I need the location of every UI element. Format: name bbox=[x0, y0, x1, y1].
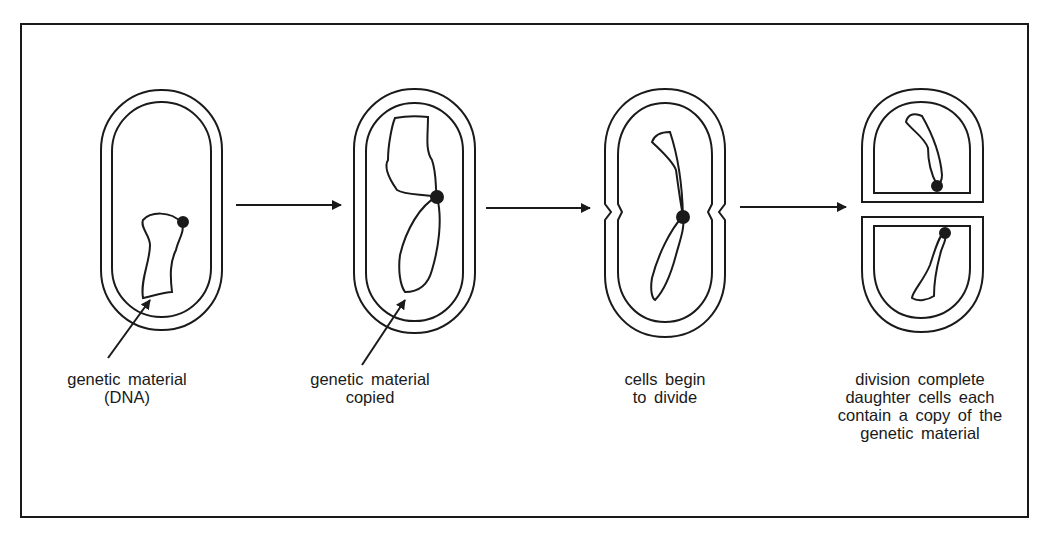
dna-attachment-point bbox=[932, 181, 942, 191]
stage-3-label: cells begin to divide bbox=[565, 370, 765, 406]
stage-4-label: division complete daughter cells each co… bbox=[790, 370, 1050, 442]
label-line: genetic material bbox=[265, 370, 475, 388]
label-line: daughter cells each bbox=[790, 388, 1050, 406]
label-line: (DNA) bbox=[22, 388, 232, 406]
label-line: copied bbox=[265, 388, 475, 406]
dna-attachment-point bbox=[677, 211, 689, 223]
cell-wall-inner bbox=[112, 102, 211, 317]
label-line: contain a copy of the bbox=[790, 406, 1050, 424]
dna-loop-lower bbox=[651, 216, 683, 300]
dna-loop-original bbox=[386, 116, 437, 197]
dna-loop bbox=[142, 214, 182, 298]
dna-loop-upper bbox=[652, 132, 683, 216]
daughter-cell-bottom bbox=[862, 217, 983, 332]
label-line: division complete bbox=[790, 370, 1050, 388]
dna-attachment-point bbox=[940, 228, 950, 238]
label-line: genetic material bbox=[790, 424, 1050, 442]
label-line: genetic material bbox=[22, 370, 232, 388]
cell-wall-outer bbox=[862, 89, 983, 202]
cell-wall-inner bbox=[874, 226, 970, 318]
dna-attachment-point bbox=[178, 217, 188, 227]
label-line: cells begin bbox=[565, 370, 765, 388]
cell-division-diagram bbox=[0, 0, 1052, 533]
cell-stage-1 bbox=[101, 90, 222, 358]
stage-2-label: genetic material copied bbox=[265, 370, 475, 406]
cell-wall-inner bbox=[366, 103, 463, 321]
dna-loop bbox=[912, 232, 945, 300]
cell-stage-2 bbox=[354, 89, 475, 365]
dna-attachment-point bbox=[431, 191, 443, 203]
cell-wall-outer bbox=[862, 217, 983, 332]
cell-wall-outer-pinched bbox=[605, 89, 725, 337]
cell-stage-3 bbox=[605, 89, 725, 337]
cell-wall-inner-pinched bbox=[618, 103, 712, 322]
dna-loop bbox=[906, 114, 942, 185]
dna-loop-copy bbox=[399, 197, 439, 292]
label-line: to divide bbox=[565, 388, 765, 406]
daughter-cell-top bbox=[862, 89, 983, 202]
stage-1-label: genetic material (DNA) bbox=[22, 370, 232, 406]
